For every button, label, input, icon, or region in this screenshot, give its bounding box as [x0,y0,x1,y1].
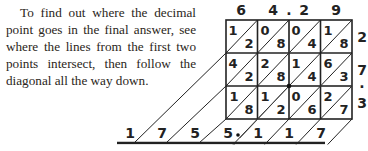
right-multiplier: 2 7 . 3 [357,29,367,111]
right-digit: 2 [357,29,367,45]
cell-units: 8 [244,102,253,117]
cell-units: 2 [244,36,253,51]
cell-tens: 0 [291,23,300,38]
answer-decimal-dot [236,133,240,137]
cell-units: 4 [307,36,316,51]
cell-tens: 1 [229,89,238,104]
cell-units: 8 [276,69,285,84]
cell-tens: 1 [260,89,269,104]
cell-tens: 1 [323,23,332,38]
top-digit: 2 [299,2,309,18]
answer-digit: 1 [253,125,263,141]
top-digit: 4 [268,2,278,18]
cell-tens: 1 [291,56,300,71]
cell-tens: 2 [323,89,332,104]
cell-tens: 1 [228,23,237,38]
right-digit: 3 [357,95,367,111]
cell-units: 6 [307,102,316,117]
cell-units: 3 [339,69,348,84]
answer-digit: 1 [125,125,135,141]
answer-digit: 5 [190,125,200,141]
answer-digit: 5 [223,125,233,141]
cell-units: 2 [276,102,285,117]
cell-tens: 6 [323,56,332,71]
cell-units: 8 [276,36,285,51]
cell-units: 7 [339,102,348,117]
top-digit: 9 [331,2,341,18]
cell-units: 2 [244,69,253,84]
right-decimal: . [359,75,364,91]
cell-tens: 2 [260,56,269,71]
cell-tens: 0 [291,89,300,104]
top-digit: 6 [236,2,246,18]
cell-tens: 4 [228,56,237,71]
answer-digit: 1 [284,125,294,141]
top-decimal: . [286,2,291,18]
cell-tens: 0 [260,23,269,38]
intersection-dot [287,84,292,89]
lattice-diagram: 6 4 . 2 9 2 7 . 3 1 2 0 8 0 4 1 8 4 2 2 … [0,0,368,151]
cell-units: 4 [307,69,316,84]
cell-units: 8 [339,36,348,51]
top-multiplicand: 6 4 . 2 9 [236,2,341,18]
answer-digit: 7 [316,125,326,141]
answer-digits: 1 7 5 5 1 1 7 [125,125,326,141]
answer-digit: 7 [157,125,167,141]
